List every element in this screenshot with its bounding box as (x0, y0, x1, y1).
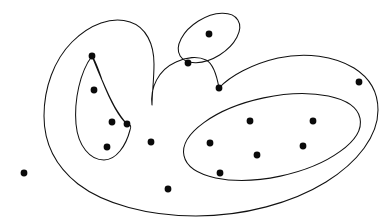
point-marker-p11 (216, 85, 223, 92)
left-inner-region (76, 56, 131, 160)
point-marker-p2 (89, 53, 96, 60)
point-marker-p1 (21, 170, 28, 177)
point-marker-p6 (104, 144, 111, 151)
right-inner-ellipse (176, 79, 369, 195)
point-marker-p13 (247, 118, 254, 125)
figure-container (0, 0, 388, 223)
set-diagram-canvas (0, 0, 388, 223)
point-marker-p9 (206, 31, 213, 38)
point-marker-p12 (356, 79, 363, 86)
point-marker-p18 (217, 170, 224, 177)
point-marker-p15 (207, 140, 214, 147)
point-marker-p14 (310, 118, 317, 125)
point-marker-p4 (109, 119, 116, 126)
point-marker-p17 (300, 143, 307, 150)
point-marker-p16 (254, 152, 261, 159)
point-marker-p5 (124, 121, 131, 128)
point-marker-p3 (91, 87, 98, 94)
point-marker-p7 (148, 139, 155, 146)
point-marker-p8 (165, 186, 172, 193)
point-marker-p10 (185, 60, 192, 67)
